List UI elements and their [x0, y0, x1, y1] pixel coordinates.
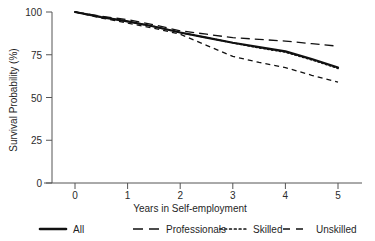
y-tick-label-25: 25 [31, 135, 43, 146]
legend-label-skilled: Skilled [253, 224, 282, 235]
chart-canvas: 100 75 50 25 0 0 1 2 3 4 5 Years in Self… [0, 0, 375, 241]
series-group [75, 12, 338, 82]
legend-label-all: All [73, 224, 84, 235]
x-axis-tick-labels: 0 1 2 3 4 5 [72, 190, 341, 201]
x-axis-ticks [75, 183, 338, 189]
x-axis-title: Years in Self-employment [133, 203, 247, 214]
x-tick-label-1: 1 [125, 190, 131, 201]
chart-legend: AllProfessionalsSkilledUnskilled [40, 224, 357, 235]
y-tick-label-50: 50 [31, 93, 43, 104]
legend-label-professionals: Professionals [166, 224, 226, 235]
x-tick-label-4: 4 [283, 190, 289, 201]
x-tick-label-5: 5 [335, 190, 341, 201]
series-line-professionals [75, 12, 338, 46]
x-tick-label-3: 3 [230, 190, 236, 201]
survival-probability-chart: 100 75 50 25 0 0 1 2 3 4 5 Years in Self… [0, 0, 375, 241]
legend-label-unskilled: Unskilled [316, 224, 357, 235]
y-axis-title: Survival Probability (%) [8, 48, 19, 151]
series-line-unskilled [75, 12, 338, 82]
y-axis-tick-labels: 100 75 50 25 0 [25, 7, 42, 189]
y-tick-label-75: 75 [31, 50, 43, 61]
y-tick-label-100: 100 [25, 7, 42, 18]
y-axis-ticks [46, 12, 52, 183]
x-tick-label-0: 0 [72, 190, 78, 201]
x-tick-label-2: 2 [177, 190, 183, 201]
y-tick-label-0: 0 [36, 178, 42, 189]
